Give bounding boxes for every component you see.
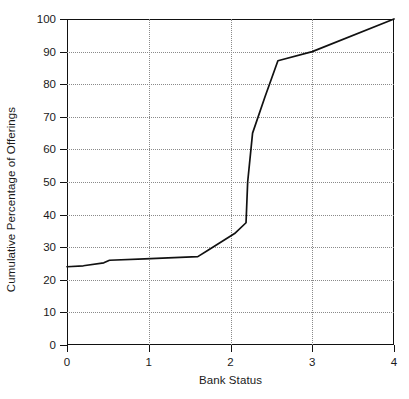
x-tick-mark [67, 345, 68, 352]
y-tick-mark [60, 247, 67, 248]
y-tick-label: 20 [43, 274, 56, 286]
x-tick-label: 4 [391, 356, 397, 368]
x-tick-mark [149, 345, 150, 352]
x-tick-label: 3 [309, 356, 315, 368]
x-tick-label: 2 [227, 356, 233, 368]
y-tick-mark [60, 280, 67, 281]
y-tick-label: 70 [43, 111, 56, 123]
cumulative-distribution-chart: Cumulative Percentage of Offerings 01020… [0, 0, 409, 399]
x-tick-mark [394, 345, 395, 352]
y-tick-mark [60, 19, 67, 20]
y-tick-mark [60, 84, 67, 85]
y-tick-mark [60, 345, 67, 346]
y-tick-mark [60, 149, 67, 150]
x-tick-label: 1 [146, 356, 152, 368]
y-tick-label: 10 [43, 306, 56, 318]
y-tick-label: 100 [37, 13, 56, 25]
data-line [67, 19, 394, 345]
y-tick-label: 50 [43, 176, 56, 188]
y-tick-mark [60, 215, 67, 216]
plot-area: 0102030405060708090100 01234 [67, 19, 394, 345]
y-tick-label: 0 [50, 339, 56, 351]
y-tick-mark [60, 312, 67, 313]
y-tick-label: 90 [43, 46, 56, 58]
y-tick-mark [60, 182, 67, 183]
y-tick-label: 60 [43, 143, 56, 155]
x-tick-mark [231, 345, 232, 352]
x-tick-label: 0 [64, 356, 70, 368]
x-tick-mark [312, 345, 313, 352]
y-tick-mark [60, 117, 67, 118]
x-axis-title: Bank Status [67, 374, 394, 386]
y-axis-title: Cumulative Percentage of Offerings [0, 0, 22, 399]
y-tick-label: 40 [43, 209, 56, 221]
y-tick-mark [60, 52, 67, 53]
y-tick-label: 30 [43, 241, 56, 253]
y-tick-label: 80 [43, 78, 56, 90]
